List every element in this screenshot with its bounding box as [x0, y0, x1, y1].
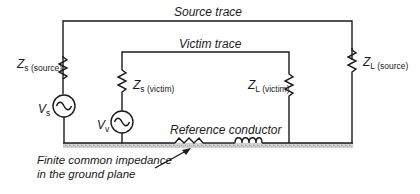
annotation-line-2: in the ground plane [37, 168, 135, 180]
reference-conductor-label: Reference conductor [170, 123, 282, 137]
sine-icon [57, 102, 72, 110]
annotation-line-1: Finite common impedance [37, 154, 172, 166]
zl-victim-resistor [285, 72, 293, 143]
ground-inductor [235, 138, 262, 143]
zs-victim-label: Zs (victim) [132, 78, 175, 94]
vs-label: Vs [38, 102, 50, 118]
zl-source-label: ZL (source) [362, 55, 408, 71]
vv-label: Vv [97, 118, 110, 134]
sine-icon [115, 118, 130, 126]
zl-source-resistor [348, 48, 356, 143]
zs-victim-resistor [118, 68, 126, 111]
reference-conductor [63, 138, 353, 143]
zl-victim-label: ZL (victim) [247, 78, 290, 94]
circuit-diagram: Source trace Victim trace Reference cond… [0, 0, 420, 194]
zs-source-label: Zs (source) [16, 57, 62, 73]
victim-trace-label: Victim trace [179, 37, 242, 51]
ground-resistor [175, 138, 203, 143]
ground-plane [63, 143, 353, 148]
source-trace-label: Source trace [174, 5, 242, 19]
